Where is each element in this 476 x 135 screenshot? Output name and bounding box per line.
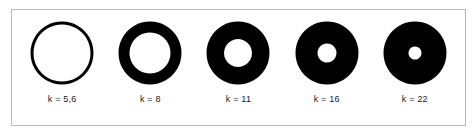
aperture-ring-icon: [205, 20, 271, 86]
ring-label-4: k = 16: [314, 94, 340, 105]
ring-label-1: k = 5,6: [48, 94, 77, 105]
aperture-ring-icon: [294, 20, 360, 86]
aperture-ring-icon: [382, 20, 448, 86]
aperture-ring-icon: [29, 20, 95, 86]
ring-label-3: k = 11: [226, 94, 251, 105]
ring-row: k = 5,6 k = 8 k = 11 k: [12, 10, 465, 125]
figure-root: k = 5,6 k = 8 k = 11 k: [0, 0, 476, 135]
figure-frame-border: k = 5,6 k = 8 k = 11 k: [11, 9, 466, 126]
ring-label-2: k = 8: [140, 94, 161, 105]
ring-cell-5: k = 22: [372, 20, 458, 105]
aperture-ring-icon: [117, 20, 183, 86]
ring-cell-1: k = 5,6: [19, 20, 105, 105]
ring-cell-2: k = 8: [107, 20, 193, 105]
ring-cell-4: k = 16: [284, 20, 370, 105]
ring-label-5: k = 22: [402, 94, 428, 105]
ring-cell-3: k = 11: [195, 20, 281, 105]
